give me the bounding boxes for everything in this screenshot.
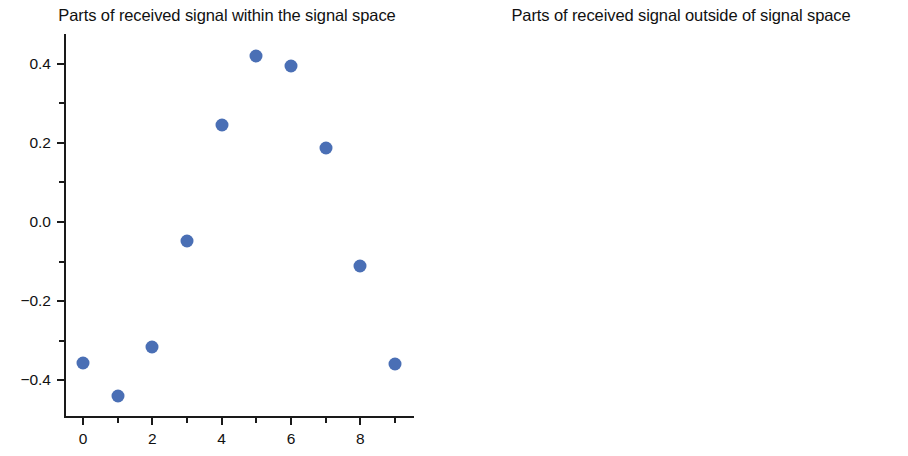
y-tick-minor [59,261,64,263]
data-point [146,340,159,353]
x-tick-label: 4 [217,431,226,447]
y-tick-label: −0.4 [20,372,51,388]
y-tick-label: −0.2 [20,293,51,309]
x-tick-minor [255,418,257,423]
x-tick-major [359,418,361,425]
chart-title-right: Parts of received signal outside of sign… [454,4,908,26]
x-tick-major [290,418,292,425]
figure-two-scatter-panels: Parts of received signal within the sign… [0,0,908,456]
data-point [215,119,228,132]
y-tick-minor [59,340,64,342]
y-tick-major [57,221,64,223]
y-tick-major [57,142,64,144]
x-tick-minor [394,418,396,423]
panel-left: Parts of received signal within the sign… [0,0,454,456]
y-axis-line [64,34,66,416]
y-tick-label: 0.0 [29,214,51,230]
x-tick-label: 0 [79,431,88,447]
chart-title-left: Parts of received signal within the sign… [0,4,454,26]
data-point [319,142,332,155]
x-tick-minor [325,418,327,423]
y-tick-minor [59,102,64,104]
y-tick-major [57,63,64,65]
x-tick-label: 6 [287,431,296,447]
data-point [181,235,194,248]
plot-area-left: 0.40.20.0−0.2−0.402468 [64,34,414,416]
y-tick-label: 0.4 [29,56,51,72]
y-tick-label: 0.2 [29,135,51,151]
panel-right: Parts of received signal outside of sign… [454,0,908,456]
data-point [111,390,124,403]
x-tick-major [82,418,84,425]
x-tick-label: 8 [356,431,365,447]
data-point [284,59,297,72]
x-tick-minor [117,418,119,423]
x-tick-major [221,418,223,425]
x-tick-label: 2 [148,431,157,447]
data-point [77,356,90,369]
data-point [354,260,367,273]
y-tick-major [57,300,64,302]
y-tick-minor [59,181,64,183]
data-point [250,49,263,62]
y-tick-major [57,379,64,381]
data-point [388,357,401,370]
x-tick-major [151,418,153,425]
x-tick-minor [186,418,188,423]
